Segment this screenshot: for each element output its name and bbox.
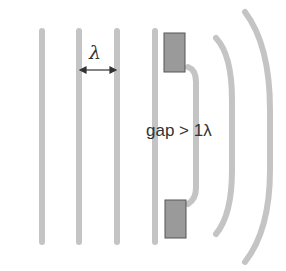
gap-label: gap > 1λ — [146, 121, 212, 141]
diffraction-diagram — [0, 0, 286, 271]
barrier-bottom — [165, 200, 186, 238]
wavelength-arrow — [80, 67, 116, 73]
wavelength-label: λ — [89, 41, 101, 63]
diffracted-wavefront-2 — [216, 38, 232, 234]
barrier-top — [164, 33, 185, 72]
diffracted-wavefront-3 — [245, 12, 270, 262]
